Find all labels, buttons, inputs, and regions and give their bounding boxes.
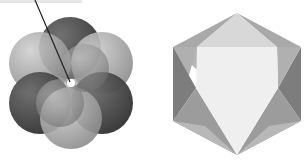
- figure-canvas: [0, 0, 306, 160]
- sphere-front-lower: [36, 79, 84, 127]
- sphere-cluster: [9, 0, 133, 149]
- center-dot: [67, 79, 75, 87]
- faceted-hexagon: [173, 13, 301, 155]
